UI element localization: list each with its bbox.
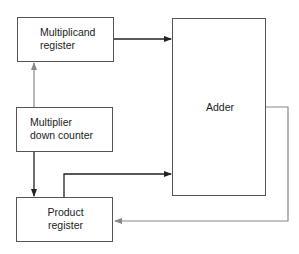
multiplier-down-counter-label: Multiplier down counter bbox=[30, 116, 93, 142]
multiplicand-register-label: Multiplicand register bbox=[40, 26, 95, 52]
product-register-label: Product register bbox=[17, 206, 114, 232]
multiplicand-register-block: Multiplicand register bbox=[17, 17, 114, 62]
arrow-product-to-adder bbox=[64, 174, 171, 197]
adder-block: Adder bbox=[172, 18, 266, 196]
multiplier-down-counter-block: Multiplier down counter bbox=[16, 107, 113, 152]
product-register-block: Product register bbox=[16, 197, 113, 242]
adder-label: Adder bbox=[173, 101, 267, 114]
